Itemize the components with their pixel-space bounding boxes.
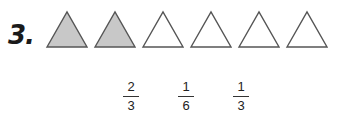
- triangle-shaded-1: [47, 12, 87, 47]
- triangle-row: [0, 0, 343, 60]
- triangle-empty-4: [191, 12, 231, 47]
- denominator: 3: [121, 97, 141, 113]
- triangle-empty-5: [239, 12, 279, 47]
- denominator: 6: [176, 97, 196, 113]
- fraction-choice-3[interactable]: 1 3: [231, 80, 251, 113]
- fraction-choice-2[interactable]: 1 6: [176, 80, 196, 113]
- numerator: 1: [231, 80, 251, 96]
- fraction-choice-1[interactable]: 2 3: [121, 80, 141, 113]
- triangle-shaded-2: [95, 12, 135, 47]
- denominator: 3: [231, 97, 251, 113]
- triangle-empty-6: [287, 12, 327, 47]
- numerator: 1: [176, 80, 196, 96]
- numerator: 2: [121, 80, 141, 96]
- triangle-empty-3: [143, 12, 183, 47]
